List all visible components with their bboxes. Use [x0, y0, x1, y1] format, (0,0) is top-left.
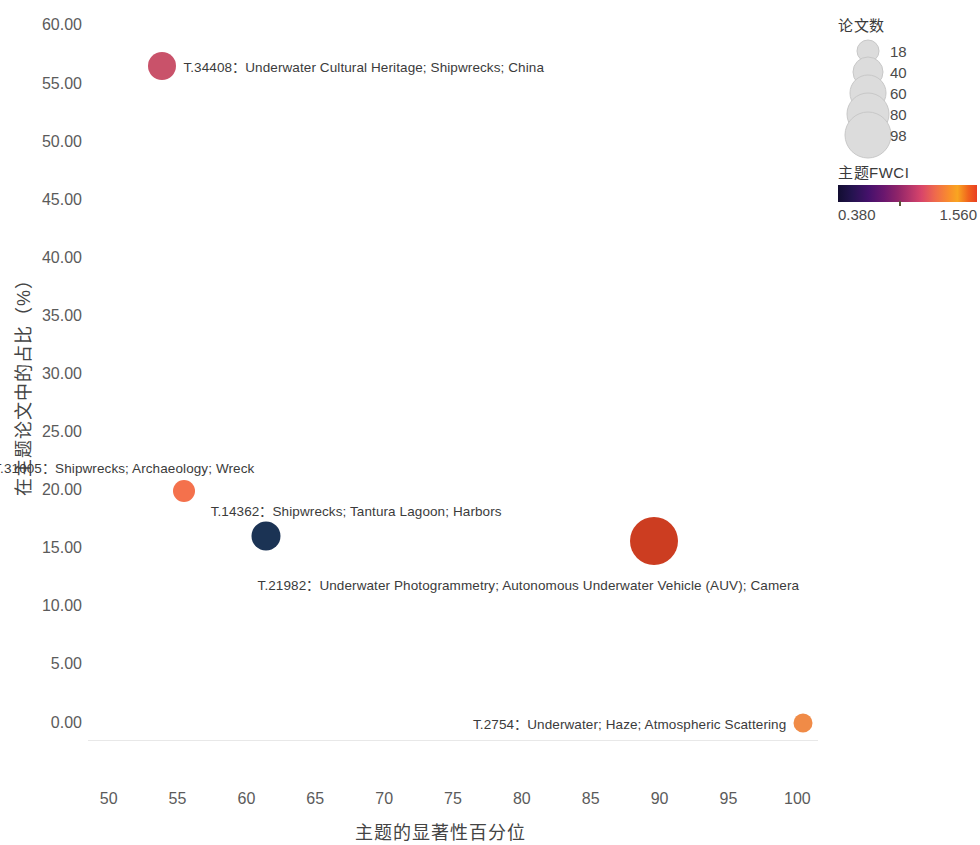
x-axis-tick-label: 50: [100, 790, 118, 808]
x-axis-tick-label: 70: [375, 790, 393, 808]
color-legend: 主题FWCI 0.380 1.560: [838, 161, 978, 223]
x-axis-tick-label: 95: [720, 790, 738, 808]
x-axis-tick-label: 100: [784, 790, 811, 808]
y-axis-tick-label: 55.00: [42, 75, 82, 93]
size-legend-label: 60: [890, 85, 907, 102]
size-legend-label: 98: [890, 127, 907, 144]
colorbar-range: 0.380 1.560: [838, 206, 977, 223]
colorbar: [838, 185, 977, 202]
y-axis-tick-label: 10.00: [42, 597, 82, 615]
size-legend: 1840608098: [838, 37, 978, 147]
size-legend-swatch: [845, 112, 892, 159]
size-legend-label: 40: [890, 64, 907, 81]
x-axis-baseline: [88, 740, 818, 741]
x-axis-tick-label: 65: [306, 790, 324, 808]
legend: 论文数 1840608098 主题FWCI 0.380 1.560: [838, 14, 978, 223]
y-axis-tick-label: 30.00: [42, 365, 82, 383]
x-axis-tick-label: 85: [582, 790, 600, 808]
size-legend-title: 论文数: [838, 14, 978, 35]
data-point-label: T.2754：Underwater; Haze; Atmospheric Sca…: [473, 713, 786, 733]
x-axis-tick-label: 55: [169, 790, 187, 808]
y-axis-tick-label: 40.00: [42, 249, 82, 267]
colorbar-tick: [899, 201, 901, 206]
size-legend-label: 18: [890, 43, 907, 60]
x-axis-ticks: 50556065707580859095100: [88, 790, 818, 816]
data-point-bubble[interactable]: [251, 521, 280, 550]
chart-root: 0.005.0010.0015.0020.0025.0030.0035.0040…: [0, 0, 980, 845]
color-legend-title: 主题FWCI: [838, 161, 978, 182]
y-axis-tick-label: 50.00: [42, 133, 82, 151]
data-point-bubble[interactable]: [630, 517, 678, 565]
data-point-bubble[interactable]: [173, 480, 195, 502]
x-axis-title: 主题的显著性百分位: [0, 818, 880, 844]
data-point-label: T.21982：Underwater Photogrammetry; Auton…: [258, 574, 800, 594]
data-point-label: T.31005：Shipwrecks; Archaeology; Wreck: [0, 457, 254, 477]
data-point-bubble[interactable]: [148, 52, 176, 80]
x-axis-tick-label: 80: [513, 790, 531, 808]
y-axis-tick-label: 45.00: [42, 191, 82, 209]
data-point-bubble[interactable]: [793, 713, 812, 732]
y-axis-tick-label: 0.00: [51, 714, 82, 732]
y-axis-tick-label: 20.00: [42, 481, 82, 499]
y-axis-tick-label: 60.00: [42, 16, 82, 34]
size-legend-label: 80: [890, 106, 907, 123]
y-axis-tick-label: 25.00: [42, 423, 82, 441]
x-axis-tick-label: 90: [651, 790, 669, 808]
y-axis-tick-label: 5.00: [51, 655, 82, 673]
x-axis-tick-label: 75: [444, 790, 462, 808]
y-axis-tick-label: 35.00: [42, 307, 82, 325]
y-axis-tick-label: 15.00: [42, 539, 82, 557]
data-point-label: T.34408：Underwater Cultural Heritage; Sh…: [183, 56, 544, 76]
data-point-label: T.14362：Shipwrecks; Tantura Lagoon; Harb…: [211, 500, 502, 520]
x-axis-tick-label: 60: [237, 790, 255, 808]
colorbar-min-label: 0.380: [838, 206, 876, 223]
plot-area: T.34408：Underwater Cultural Heritage; Sh…: [88, 8, 818, 740]
y-axis-title: 在主题论文中的占比（%）: [9, 173, 35, 593]
colorbar-max-label: 1.560: [939, 206, 977, 223]
